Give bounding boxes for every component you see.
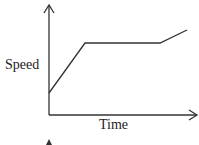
speed-time-graph: Speed Time — [0, 0, 199, 145]
partial-arrowhead-icon — [46, 139, 52, 145]
speed-line — [49, 30, 187, 93]
x-axis-label: Time — [99, 117, 128, 132]
y-axis-label: Speed — [5, 57, 39, 72]
